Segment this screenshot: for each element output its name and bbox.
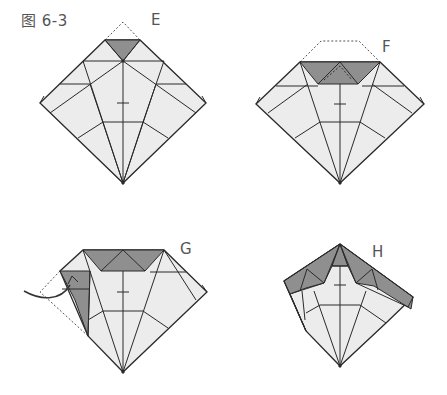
step-g-diagram (24, 250, 207, 373)
step-h-diagram (284, 244, 413, 367)
origami-diagram (0, 0, 447, 395)
step-f-diagram (256, 41, 424, 184)
fold-arrow-icon (24, 285, 70, 298)
step-e-diagram (40, 22, 206, 184)
